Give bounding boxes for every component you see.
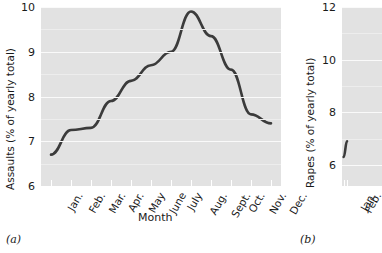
- gridline: [41, 52, 281, 53]
- panel-b-rapes-line: [344, 141, 347, 157]
- gridline: [342, 7, 382, 8]
- panel-a: Assaults (% of yearly total) 678910 Jan.…: [0, 0, 285, 253]
- x-tick-mark: [131, 180, 132, 190]
- x-tick-mark: [71, 180, 72, 190]
- gridline: [342, 165, 382, 166]
- x-tick-mark: [211, 180, 212, 190]
- y-tick-label: 7: [11, 135, 35, 148]
- y-tick-label: 9: [11, 45, 35, 58]
- gridline-minor: [342, 33, 382, 34]
- x-tick-mark: [171, 180, 172, 190]
- gridline-minor: [342, 86, 382, 87]
- x-tick-mark: [151, 180, 152, 190]
- gridline: [41, 141, 281, 142]
- panel-b-tag: (b): [300, 233, 316, 246]
- gridline-minor: [342, 139, 382, 140]
- y-tick-label: 10: [11, 1, 35, 14]
- y-tick-label: 8: [312, 106, 336, 119]
- x-tick-mark: [91, 180, 92, 190]
- y-tick-label: 12: [312, 1, 336, 14]
- x-tick-mark: [231, 180, 232, 190]
- y-tick-label: 6: [11, 180, 35, 193]
- x-tick-mark: [111, 180, 112, 190]
- gridline-minor: [41, 74, 281, 75]
- panel-a-plot-area: [41, 7, 281, 186]
- panel-a-y-axis-title: Assaults (% of yearly total): [4, 48, 16, 190]
- gridline: [342, 60, 382, 61]
- panel-a-assaults-line: [51, 11, 271, 154]
- figure-container: Assaults (% of yearly total) 678910 Jan.…: [0, 0, 382, 253]
- x-tick-mark: [347, 180, 348, 190]
- x-tick-label: Nov.: [267, 190, 289, 216]
- x-tick-label: Mar.: [106, 190, 127, 215]
- y-tick-label: 10: [312, 53, 336, 66]
- panel-a-tag: (a): [6, 233, 21, 246]
- x-tick-mark: [51, 180, 52, 190]
- x-tick-mark: [251, 180, 252, 190]
- x-tick-label: Aug.: [207, 190, 229, 217]
- x-tick-mark: [271, 180, 272, 190]
- x-tick-mark: [344, 180, 345, 190]
- gridline-minor: [41, 119, 281, 120]
- y-tick-label: 8: [11, 90, 35, 103]
- gridline: [41, 97, 281, 98]
- x-tick-label: Feb.: [86, 190, 107, 215]
- panel-b: Rapes (% of yearly total) 681012 Jan.Feb…: [288, 0, 382, 253]
- panel-b-plot-area: [342, 7, 382, 186]
- x-tick-mark: [191, 180, 192, 190]
- x-tick-label: Jan.: [65, 190, 85, 213]
- x-tick-label: July: [184, 190, 204, 212]
- gridline: [342, 112, 382, 113]
- gridline-minor: [41, 164, 281, 165]
- panel-a-x-axis-title: Month: [138, 211, 172, 224]
- y-tick-label: 6: [312, 158, 336, 171]
- gridline-minor: [41, 29, 281, 30]
- gridline: [41, 7, 281, 8]
